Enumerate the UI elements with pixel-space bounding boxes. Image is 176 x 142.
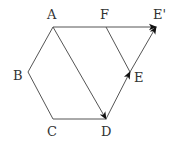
point-label-d: D bbox=[101, 124, 111, 139]
point-label-a: A bbox=[46, 7, 57, 22]
point-label-e: E bbox=[134, 70, 144, 85]
hexagon-vector-diagram: AFE'BECD bbox=[0, 0, 176, 142]
vector-e-e2 bbox=[130, 27, 156, 72]
vector-d-e bbox=[106, 72, 130, 119]
point-label-b: B bbox=[13, 68, 23, 83]
segment-f-e bbox=[106, 27, 130, 72]
point-label-e2: E' bbox=[153, 7, 166, 22]
segment-a-b bbox=[28, 27, 53, 72]
point-label-c: C bbox=[47, 124, 57, 139]
point-label-f: F bbox=[100, 7, 109, 22]
segment-b-c bbox=[28, 72, 53, 119]
vector-a-d bbox=[53, 27, 106, 119]
